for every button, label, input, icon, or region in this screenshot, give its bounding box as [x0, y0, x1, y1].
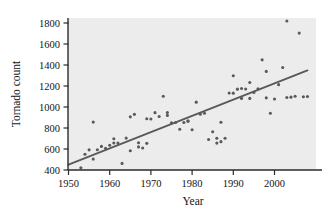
- tornado-count-scatter-figure: 40060080010001200140016001800 1950196019…: [0, 0, 326, 217]
- data-point: [125, 137, 128, 140]
- x-axis-ticks: 195019601970198019902000: [58, 170, 285, 189]
- data-point: [207, 138, 210, 141]
- y-tick-label: 1200: [39, 81, 60, 92]
- data-point: [277, 83, 280, 86]
- chart-canvas: 40060080010001200140016001800 1950196019…: [0, 0, 326, 217]
- y-tick-label: 1400: [39, 60, 60, 71]
- y-axis-ticks: 40060080010001200140016001800: [39, 18, 69, 176]
- data-point: [248, 97, 251, 100]
- data-point: [166, 111, 169, 114]
- data-point: [215, 142, 218, 145]
- data-point: [294, 95, 297, 98]
- data-point: [244, 87, 247, 90]
- data-point: [211, 130, 214, 133]
- data-point: [88, 148, 91, 151]
- data-point: [83, 153, 86, 156]
- data-point: [112, 141, 115, 144]
- data-point: [149, 117, 152, 120]
- data-point: [137, 145, 140, 148]
- data-point: [273, 97, 276, 100]
- data-point: [302, 95, 305, 98]
- data-point: [236, 88, 239, 91]
- data-point: [133, 113, 136, 116]
- data-point: [281, 66, 284, 69]
- data-point: [100, 145, 103, 148]
- data-point: [228, 91, 231, 94]
- data-point: [129, 115, 132, 118]
- y-tick-label: 400: [44, 165, 60, 176]
- data-point: [158, 115, 161, 118]
- x-tick-label: 2000: [264, 178, 285, 189]
- data-point: [92, 121, 95, 124]
- data-point: [232, 74, 235, 77]
- x-tick-label: 1980: [182, 178, 203, 189]
- y-axis-title: Tornado count: [10, 60, 22, 127]
- data-point: [79, 166, 82, 169]
- data-point: [129, 149, 132, 152]
- data-point: [298, 32, 301, 35]
- data-point: [92, 158, 95, 161]
- data-point: [269, 112, 272, 115]
- data-point: [285, 19, 288, 22]
- x-tick-label: 1960: [99, 178, 120, 189]
- data-point: [112, 137, 115, 140]
- data-point: [141, 147, 144, 150]
- data-point: [219, 140, 222, 143]
- y-tick-label: 1800: [39, 18, 60, 29]
- data-point: [215, 137, 218, 140]
- data-point: [153, 111, 156, 114]
- data-point: [248, 81, 251, 84]
- data-point: [178, 128, 181, 131]
- data-point: [166, 114, 169, 117]
- data-point: [137, 141, 140, 144]
- data-point: [224, 137, 227, 140]
- data-point: [219, 121, 222, 124]
- data-point: [261, 58, 264, 61]
- data-point: [182, 121, 185, 124]
- data-point: [232, 92, 235, 95]
- data-point: [289, 96, 292, 99]
- x-tick-label: 1970: [140, 178, 161, 189]
- y-tick-label: 600: [44, 144, 60, 155]
- y-tick-label: 1600: [39, 39, 60, 50]
- x-tick-label: 1950: [58, 178, 79, 189]
- data-point: [265, 96, 268, 99]
- data-point: [285, 96, 288, 99]
- data-point: [191, 128, 194, 131]
- data-point: [162, 95, 165, 98]
- data-point: [186, 120, 189, 123]
- data-point: [265, 70, 268, 73]
- y-tick-label: 1000: [39, 102, 60, 113]
- data-point: [145, 142, 148, 145]
- y-tick-label: 800: [44, 123, 60, 134]
- data-point: [240, 87, 243, 90]
- data-point: [195, 101, 198, 104]
- data-point: [306, 95, 309, 98]
- data-point: [145, 117, 148, 120]
- data-point: [108, 144, 111, 147]
- data-point: [96, 148, 99, 151]
- data-point: [121, 162, 124, 165]
- x-axis-title: Year: [182, 195, 203, 207]
- x-tick-label: 1990: [223, 178, 244, 189]
